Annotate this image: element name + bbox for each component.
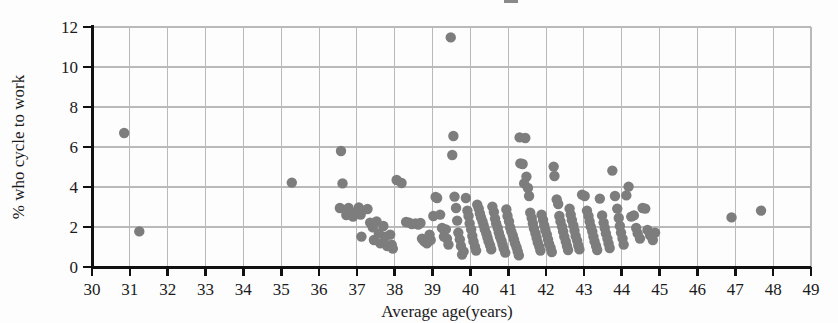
- y-tick-label: 8: [70, 98, 79, 117]
- x-tick-label: 48: [765, 280, 782, 299]
- chart-canvas: 3031323334353637383940414243444546474849…: [0, 0, 838, 323]
- data-point: [640, 203, 650, 213]
- data-point: [441, 224, 451, 234]
- data-point: [607, 165, 617, 175]
- x-tick-label: 36: [311, 280, 328, 299]
- x-tick-label: 33: [197, 280, 214, 299]
- data-point: [517, 159, 527, 169]
- data-point: [604, 243, 614, 253]
- data-point: [446, 32, 456, 42]
- data-point: [623, 181, 633, 191]
- y-tick-label: 0: [70, 258, 79, 277]
- data-point: [621, 190, 631, 200]
- x-tick-label: 41: [500, 280, 517, 299]
- x-tick-label: 38: [386, 280, 403, 299]
- data-point: [548, 161, 558, 171]
- data-point: [486, 244, 496, 254]
- data-point: [385, 229, 395, 239]
- x-tick-label: 35: [273, 280, 290, 299]
- x-tick-label: 47: [727, 280, 745, 299]
- data-point: [612, 203, 622, 213]
- data-point: [580, 191, 590, 201]
- x-tick-label: 49: [803, 280, 820, 299]
- data-point: [356, 231, 366, 241]
- data-point: [650, 227, 660, 237]
- scatter-plot-figure: 3031323334353637383940414243444546474849…: [0, 0, 838, 323]
- data-point: [563, 245, 573, 255]
- data-point: [448, 131, 458, 141]
- data-point: [449, 191, 459, 201]
- tick-labels-layer: 3031323334353637383940414243444546474849…: [61, 18, 820, 299]
- data-point: [514, 250, 524, 260]
- data-point: [520, 133, 530, 143]
- y-tick-label: 10: [61, 58, 78, 77]
- data-point: [635, 233, 645, 243]
- data-point: [500, 247, 510, 257]
- data-point: [629, 210, 639, 220]
- data-point: [362, 204, 372, 214]
- data-point: [388, 243, 398, 253]
- x-tick-label: 43: [575, 280, 592, 299]
- data-point: [378, 221, 388, 231]
- data-point: [535, 245, 545, 255]
- x-tick-label: 44: [613, 280, 631, 299]
- y-tick-label: 6: [70, 138, 79, 157]
- data-point: [435, 209, 445, 219]
- data-point: [443, 239, 453, 249]
- data-point: [471, 245, 481, 255]
- gridlines: [92, 27, 811, 267]
- x-tick-label: 40: [462, 280, 479, 299]
- data-point: [432, 193, 442, 203]
- data-point: [553, 199, 563, 209]
- data-point: [287, 177, 297, 187]
- x-tick-label: 42: [538, 280, 555, 299]
- data-point: [134, 226, 144, 236]
- data-point: [524, 191, 534, 201]
- x-tick-label: 32: [159, 280, 176, 299]
- x-axis-title: Average age(years): [381, 302, 512, 321]
- data-point: [595, 193, 605, 203]
- x-tick-label: 37: [348, 280, 366, 299]
- x-tick-label: 46: [689, 280, 706, 299]
- data-point: [452, 215, 462, 225]
- data-point: [610, 191, 620, 201]
- y-tick-label: 4: [70, 178, 79, 197]
- y-tick-label: 2: [70, 218, 79, 237]
- x-tick-label: 34: [235, 280, 253, 299]
- data-point: [574, 244, 584, 254]
- data-point: [547, 247, 557, 257]
- data-point: [458, 246, 468, 256]
- x-tick-label: 31: [121, 280, 138, 299]
- data-point: [618, 239, 628, 249]
- data-point: [549, 171, 559, 181]
- x-tick-label: 45: [651, 280, 668, 299]
- data-point: [336, 146, 346, 156]
- data-point: [337, 178, 347, 188]
- data-point: [726, 212, 736, 222]
- cropped-title-remnant: [504, 0, 518, 3]
- data-point: [592, 245, 602, 255]
- data-point: [461, 193, 471, 203]
- data-point: [451, 203, 461, 213]
- data-point: [119, 128, 129, 138]
- data-point: [425, 235, 435, 245]
- y-axis-title: % who cycle to work: [9, 74, 28, 219]
- data-point: [756, 205, 766, 215]
- data-point: [447, 150, 457, 160]
- data-point: [396, 178, 406, 188]
- x-tick-label: 39: [424, 280, 441, 299]
- x-tick-label: 30: [84, 280, 101, 299]
- y-tick-label: 12: [61, 18, 78, 37]
- data-point: [521, 171, 531, 181]
- data-point: [415, 218, 425, 228]
